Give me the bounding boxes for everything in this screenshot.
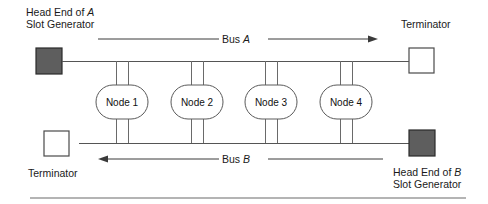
head-end-a-label-line1: Head End of A — [26, 6, 94, 18]
node-2-label: Node 2 — [181, 97, 214, 108]
bus-a-annotation: Bus A — [98, 33, 378, 45]
node-group: Node 1 Node 2 Node 3 Node 4 — [96, 85, 372, 119]
head-end-a-box — [36, 48, 62, 74]
bus-a-arrowhead-right-icon — [368, 36, 378, 43]
node-drop-wires — [116, 61, 352, 143]
node-4[interactable]: Node 4 — [320, 85, 372, 119]
head-end-b-label-line2: Slot Generator — [393, 178, 462, 190]
dual-bus-network-diagram: Head End of A Slot Generator Terminator … — [0, 0, 488, 204]
terminator-bottom-label: Terminator — [28, 167, 78, 179]
head-end-a-label-line1-emphasis: A — [86, 6, 94, 18]
terminator-bottom-box — [44, 131, 69, 156]
bus-a-label: Bus A — [222, 33, 250, 45]
head-end-b-label-line1-text: Head End of — [393, 166, 454, 178]
bus-b-arrowhead-left-icon — [98, 156, 108, 163]
bus-a-label-text: Bus — [222, 33, 243, 45]
node-1-label: Node 1 — [106, 97, 139, 108]
head-end-b-label-line1-emphasis: B — [454, 166, 461, 178]
terminator-top-label: Terminator — [401, 18, 451, 30]
node-1[interactable]: Node 1 — [96, 85, 148, 119]
node-2[interactable]: Node 2 — [171, 85, 223, 119]
node-4-label: Node 4 — [330, 97, 363, 108]
bus-b-label: Bus B — [222, 153, 250, 165]
node-3[interactable]: Node 3 — [245, 85, 297, 119]
head-end-a-label-line2: Slot Generator — [26, 18, 95, 30]
diagram-canvas: Head End of A Slot Generator Terminator … — [0, 0, 488, 204]
node-3-label: Node 3 — [255, 97, 288, 108]
head-end-b-label-line1: Head End of B — [393, 166, 461, 178]
head-end-a-label-line1-text: Head End of — [26, 6, 87, 18]
head-end-b-box — [409, 130, 435, 156]
bus-b-label-emphasis: B — [243, 153, 250, 165]
bus-a-label-emphasis: A — [242, 33, 250, 45]
bus-b-annotation: Bus B — [98, 153, 383, 165]
terminator-top-box — [409, 48, 434, 73]
bus-b-label-text: Bus — [222, 153, 243, 165]
